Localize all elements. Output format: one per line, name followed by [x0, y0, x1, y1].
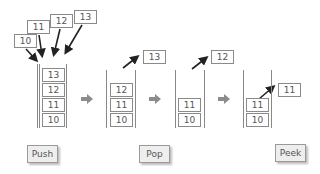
stack-item: 11 [42, 98, 65, 112]
pop-button[interactable]: Pop [139, 145, 170, 163]
stack-item: 11 [178, 98, 201, 112]
pop-arrow-13-icon [123, 57, 137, 68]
flow-arrow-2-icon [149, 94, 161, 104]
push-arrow-11-icon [39, 35, 42, 55]
stack-wall-left [175, 70, 176, 128]
stack-wall-right [66, 64, 67, 128]
push-input-10: 10 [14, 34, 37, 48]
stack-item: 10 [110, 113, 133, 127]
stack-item: 11 [110, 98, 133, 112]
stack-wall-right [271, 70, 272, 128]
stack-wall-left [243, 70, 244, 128]
pop-arrow-12-icon [192, 58, 206, 69]
peek-button[interactable]: Peek [275, 144, 306, 162]
stack-item: 13 [42, 68, 65, 82]
stack-wall-right [135, 70, 136, 128]
stack-item: 10 [42, 113, 65, 127]
flow-arrow-3-icon [218, 94, 230, 104]
stack-item: 11 [246, 98, 269, 112]
stack-wall-left [37, 64, 38, 128]
stack-wall-left [106, 70, 107, 128]
push-arrow-13-icon [66, 25, 82, 52]
flow-arrow-1-icon [81, 94, 93, 104]
stack-item: 12 [110, 83, 133, 97]
push-button[interactable]: Push [27, 145, 58, 163]
stack-wall-right [204, 70, 205, 128]
popped-item: 13 [143, 50, 166, 64]
push-input-12: 12 [50, 14, 73, 28]
popped-item: 12 [211, 50, 234, 64]
stack-item: 10 [246, 113, 269, 127]
push-input-13: 13 [74, 10, 97, 24]
stack-item: 10 [178, 113, 201, 127]
push-arrow-10-icon [26, 49, 36, 60]
stack-wall-left-inner [39, 64, 40, 128]
stack-item: 12 [42, 83, 65, 97]
push-arrow-12-icon [54, 29, 60, 54]
peeked-item: 11 [278, 83, 301, 97]
push-input-11: 11 [27, 20, 50, 34]
